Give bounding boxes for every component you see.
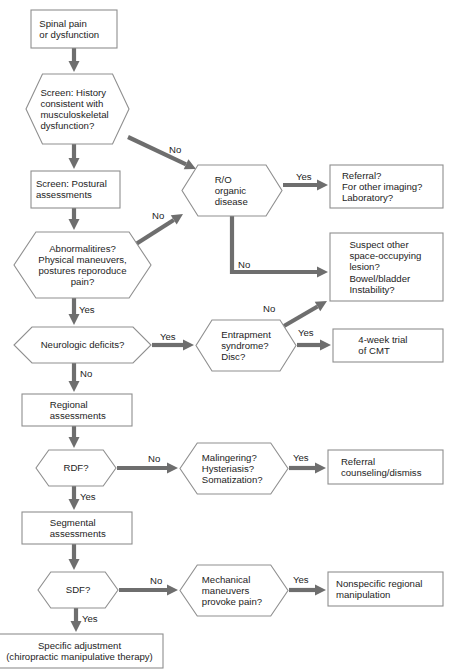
node-screen-postural: Screen: Posturalassessments <box>31 171 120 208</box>
arrowhead-icon <box>315 463 326 474</box>
node-malingering: Malingering?Hysteriasis?Somatization? <box>180 443 288 494</box>
arrowhead-icon <box>69 61 80 72</box>
arrowhead-icon <box>167 585 178 596</box>
edge-n14-to-n13 <box>284 301 327 326</box>
arrowhead-icon <box>69 381 80 392</box>
edge-n2-to-n11 <box>128 137 196 169</box>
arrowhead-icon <box>69 437 80 448</box>
edge-label-yes-e19: Yes <box>82 613 98 624</box>
node-referral: Referralcounseling/dismiss <box>328 450 443 484</box>
node-referral: Referral?For other imaging?Laboratory? <box>330 165 443 208</box>
node-4-week-trial: 4-week trialof CMT <box>333 329 443 362</box>
edge-label-yes-e12: Yes <box>298 327 314 338</box>
arrowhead-icon <box>315 585 326 596</box>
node-r-o: R/Oorganicdisease <box>182 165 282 216</box>
edge-n9-to-n10 <box>71 608 82 632</box>
node-label: Neurologic deficits? <box>41 339 125 350</box>
edge-n18-to-n19 <box>289 585 326 596</box>
arrowhead-icon <box>317 267 328 278</box>
edge-label-no-e18: No <box>150 575 162 586</box>
edge-n16-to-n17 <box>289 463 326 474</box>
edge-label-yes-e15: Yes <box>80 491 96 502</box>
edge-shaft <box>284 307 317 326</box>
edge-n3-to-n4 <box>69 208 80 230</box>
arrowhead-icon <box>69 314 80 325</box>
edge-n6-to-n7 <box>69 426 80 448</box>
edge-label-yes-e9: Yes <box>160 331 176 342</box>
node-label: Malingering?Hysteriasis?Somatization? <box>202 452 263 485</box>
node-mechanical: Mechanicalmaneuversprovoke pain? <box>180 565 288 616</box>
node-entrapment: Entrapmentsyndrome?Disc? <box>196 320 296 371</box>
arrowhead-icon <box>71 621 82 632</box>
edge-n8-to-n9 <box>69 544 80 570</box>
arrowhead-icon <box>69 158 80 169</box>
node-label: RDF? <box>63 462 88 473</box>
node-screen-history: Screen: Historyconsistent withmusculoske… <box>26 74 129 144</box>
edge-n5-to-n6 <box>69 363 80 392</box>
arrowhead-icon <box>69 499 80 510</box>
edge-label-no-e8: No <box>238 259 250 270</box>
edge-n2-to-n3 <box>69 144 80 169</box>
node-abnormalitires: Abnormalitires?Physical maneuvers,postur… <box>14 232 151 298</box>
node-label: SDF? <box>66 584 91 595</box>
node-suspect-other: Suspect otherspace-occupyinglesion?Bowel… <box>330 233 443 301</box>
edge-labels-layer: NoNoYesYesNoYesNoNoYesNoYesYesNoYesYes <box>79 144 314 624</box>
edge-label-no-e11: No <box>263 303 275 314</box>
edge-label-yes-e16: Yes <box>293 452 309 463</box>
edge-label-no-e14: No <box>148 453 160 464</box>
node-segmental: Segmentalassessments <box>22 512 132 544</box>
node-rdf: RDF? <box>36 450 116 486</box>
arrowhead-icon <box>320 340 331 351</box>
edge-n7-to-n8 <box>69 486 80 510</box>
node-nonspecific-regional: Nonspecific regionalmanipulation <box>328 572 443 606</box>
edge-label-no-e5: No <box>152 210 164 221</box>
edge-shaft <box>136 220 174 244</box>
edge-n1-to-n2 <box>69 48 80 72</box>
edge-label-yes-e6: Yes <box>79 304 95 315</box>
node-spinal-pain: Spinal painor dysfunction <box>31 10 117 48</box>
arrowhead-icon <box>69 219 80 230</box>
edge-n7-to-n16 <box>117 463 178 474</box>
nodes-layer: Spinal painor dysfunctionScreen: History… <box>0 10 443 668</box>
arrowhead-icon <box>69 559 80 570</box>
edge-label-no-e10: No <box>80 368 92 379</box>
flowchart-canvas: Spinal painor dysfunctionScreen: History… <box>0 0 454 672</box>
edge-n14-to-n15 <box>297 340 331 351</box>
edge-label-yes-e7: Yes <box>296 171 312 182</box>
node-specific-adjustment: Specific adjustment(chiropractic manipul… <box>0 634 163 668</box>
node-regional: Regionalassessments <box>22 394 132 426</box>
node-neurologic-deficits: Neurologic deficits? <box>14 327 151 363</box>
arrowhead-icon <box>167 463 178 474</box>
node-sdf: SDF? <box>38 572 118 608</box>
edge-n4-to-n5 <box>69 298 80 325</box>
edge-n9-to-n18 <box>119 585 178 596</box>
arrowhead-icon <box>317 180 328 191</box>
arrowhead-icon <box>183 340 194 351</box>
edge-label-no-e3: No <box>169 144 181 155</box>
edge-label-yes-e20: Yes <box>293 574 309 585</box>
